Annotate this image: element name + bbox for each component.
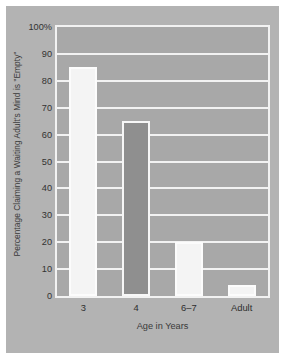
bar-3[interactable] — [69, 67, 97, 296]
x-tick-label: Adult — [212, 301, 272, 314]
y-tick-label: 10 — [8, 264, 52, 274]
y-axis-tick-labels: 100%9080706050403020100 — [6, 25, 52, 298]
y-tick-label: 40 — [8, 183, 52, 193]
y-tick-label: 70 — [8, 103, 52, 113]
y-tick-label: 30 — [8, 210, 52, 220]
chart-figure: Percentage Claiming a Waiting Adult's Mi… — [0, 0, 285, 359]
y-tick-label: 100% — [8, 22, 52, 32]
x-tick-label: 3 — [53, 301, 113, 314]
y-tick-label: 60 — [8, 130, 52, 140]
x-tick-label: 4 — [106, 301, 166, 314]
y-tick-label: 90 — [8, 49, 52, 59]
y-tick-label: 80 — [8, 76, 52, 86]
y-tick-label: 50 — [8, 157, 52, 167]
plot-inner — [57, 27, 268, 296]
plot-area — [55, 25, 270, 298]
x-axis-title: Age in Years — [55, 320, 270, 332]
y-tick-label: 20 — [8, 237, 52, 247]
x-tick-label: 6–7 — [159, 301, 219, 314]
x-axis-tick-labels: 346–7Adult — [55, 301, 270, 315]
y-tick-label: 0 — [8, 291, 52, 301]
bar-4[interactable] — [122, 121, 150, 296]
bar-adult[interactable] — [228, 285, 256, 296]
gridline — [57, 53, 268, 55]
bar-6–7[interactable] — [175, 242, 203, 296]
